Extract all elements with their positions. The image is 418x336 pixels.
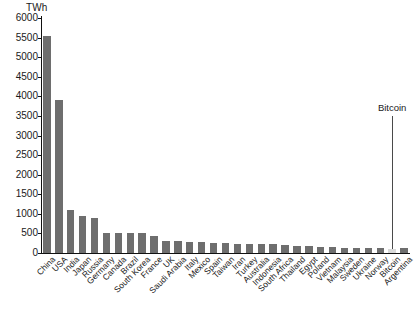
bar [329, 247, 336, 253]
y-axis-tick-label: 1500 [2, 189, 38, 199]
bar-series [41, 18, 410, 253]
bar [341, 248, 348, 253]
bar [222, 243, 229, 253]
bar [186, 242, 193, 253]
bar [293, 246, 300, 253]
y-axis-tick-label: 5000 [2, 52, 38, 62]
y-axis-tick-labels: 6000550050004500400035003000250020001500… [0, 0, 38, 336]
bar [174, 241, 181, 253]
bar [234, 244, 241, 253]
annotation-leader-line [392, 116, 393, 249]
bar [67, 210, 74, 253]
bar [55, 100, 62, 253]
bar [115, 233, 122, 253]
bar [103, 233, 110, 253]
x-axis-category-labels: ChinaUSAIndiaJapanRussiaGermanyCanadaBra… [41, 255, 410, 336]
bar [43, 36, 50, 253]
bar [365, 248, 372, 253]
annotation-label-bitcoin: Bitcoin [378, 103, 407, 113]
bar [246, 244, 253, 253]
bar [138, 233, 145, 253]
y-axis-tick-label: 1000 [2, 209, 38, 219]
y-axis-tick-label: 2000 [2, 170, 38, 180]
bar [198, 242, 205, 253]
bar [210, 243, 217, 253]
y-axis-tick-label: 500 [2, 228, 38, 238]
bar [162, 241, 169, 253]
bar-chart-figure: TWh 600055005000450040003500300025002000… [0, 0, 418, 336]
y-axis-tick-label: 4000 [2, 91, 38, 101]
bar [258, 244, 265, 253]
bar [269, 244, 276, 253]
y-axis-tick-label: 4500 [2, 72, 38, 82]
y-axis-tick-label: 6000 [2, 13, 38, 23]
bar [150, 236, 157, 253]
bar [91, 218, 98, 253]
bar [127, 233, 134, 253]
bar [400, 248, 407, 253]
y-axis-tick-label: 5500 [2, 33, 38, 43]
bar [388, 249, 395, 253]
y-axis-tick-label: 2500 [2, 150, 38, 160]
y-axis-tick-label: 3500 [2, 111, 38, 121]
bar [353, 248, 360, 253]
x-axis-line [41, 253, 410, 254]
bar [79, 216, 86, 253]
bar [281, 245, 288, 253]
y-axis-tick-label: 3000 [2, 131, 38, 141]
plot-area [41, 18, 410, 253]
bar [317, 247, 324, 253]
bar [377, 248, 384, 253]
bar [305, 246, 312, 253]
y-axis-tick-label: 0 [2, 248, 38, 258]
